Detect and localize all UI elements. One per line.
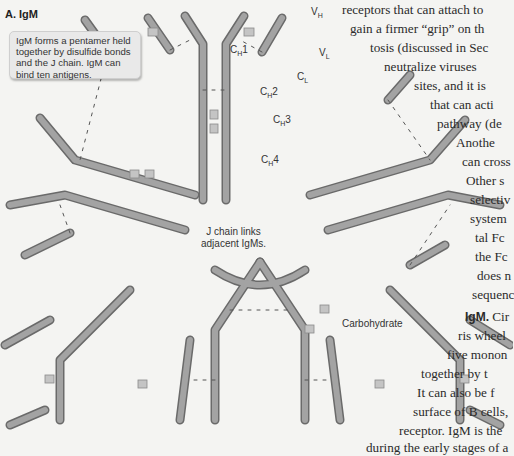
j-chain-label: J chain linksadjacent IgMs. [201, 226, 266, 250]
prose-line: surface of B cells, [413, 404, 508, 420]
prose-line: five monon [447, 347, 507, 363]
prose-line: Anothe [456, 135, 495, 151]
prose-line: Other s [466, 173, 504, 189]
prose-line: pathway (de [437, 116, 502, 132]
prose-line: tosis (discussed in Sec [370, 40, 488, 56]
label-cl: CL [297, 71, 308, 84]
prose-line: receptor. IgM is the [399, 423, 502, 439]
prose-line: receptors that can attach to [342, 2, 483, 18]
prose-line: sites, and it is [414, 78, 486, 94]
prose-line: sequenc [472, 287, 514, 303]
prose-line: tal Fc [475, 230, 505, 246]
label-vh: VH [311, 6, 323, 19]
igm-description-callout: IgM forms a pentamer held together by di… [9, 31, 141, 79]
label-vl: VL [319, 47, 330, 60]
prose-line: It can also be f [417, 385, 495, 401]
prose-line: system [470, 211, 507, 227]
figure-title: A. IgM [5, 8, 38, 20]
carbohydrate-label: Carbohydrate [342, 318, 403, 329]
label-ch4: CH4 [261, 154, 279, 167]
igm-section-line: IgM. Cir [465, 309, 509, 325]
prose-line: does n [477, 268, 511, 284]
prose-line: can cross [462, 154, 511, 170]
prose-line: the Fc [475, 249, 508, 265]
prose-line: during the early stages of a [366, 440, 508, 456]
prose-line: ris wheel [458, 328, 506, 344]
label-ch1: CH1 [230, 44, 248, 57]
prose-line: neutralize viruses [384, 59, 477, 75]
prose-line: gain a firmer “grip” on th [350, 21, 484, 37]
prose-line: selectiv [470, 192, 510, 208]
prose-line: that can acti [430, 97, 494, 113]
label-ch3: CH3 [273, 114, 291, 127]
label-ch2: CH2 [260, 86, 278, 99]
prose-line: together by t [421, 366, 488, 382]
